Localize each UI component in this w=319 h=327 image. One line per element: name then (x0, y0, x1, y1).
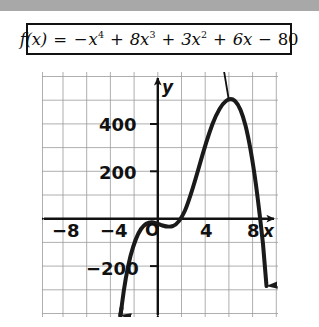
figure-container: f(x) = −x4 + 8x3 + 3x2 + 6x − 80 (0, 11, 319, 327)
y-tick-label-neg200: −200 (86, 258, 139, 279)
coordinate-plane (42, 72, 278, 317)
curve-left-arrow (120, 308, 121, 315)
function-rule-box: f(x) = −x4 + 8x3 + 3x2 + 6x − 80 (26, 23, 292, 55)
x-axis-label: x (263, 221, 274, 241)
y-tick-label-400: 400 (99, 114, 137, 135)
x-tick-label-8: 8 (247, 220, 260, 241)
y-tick-label-200: 200 (99, 162, 137, 183)
origin-label: O (145, 220, 159, 240)
x-tick-label-4: 4 (200, 220, 213, 241)
x-tick-label-neg8: −8 (52, 220, 80, 241)
plot-background (42, 72, 278, 317)
y-axis-label: y (162, 77, 173, 97)
function-rule-text: f(x) = −x4 + 8x3 + 3x2 + 6x − 80 (20, 29, 299, 49)
graph-svg (42, 72, 278, 317)
top-gray-strip (0, 0, 319, 11)
x-tick-label-neg4: −4 (100, 220, 128, 241)
